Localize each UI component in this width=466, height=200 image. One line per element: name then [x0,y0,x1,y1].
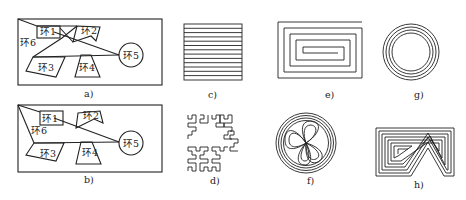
circular-fractal-paths [276,113,336,173]
rectangular-spiral [278,22,362,78]
caption-c: c) [208,89,217,100]
contour-offset-paths [376,128,454,176]
ring-6-label: 环6 [20,37,36,48]
parallel-lines [184,28,242,75]
figure-canvas: 环1 环2 环3 环4 环5 环6 a) 环1 环2 环3 环4 环5 环6 b… [0,0,466,200]
caption-g: g) [414,89,424,100]
panel-e: e) [278,22,362,100]
panel-b: 环1 环2 环3 环4 环5 环6 b) [18,105,162,185]
caption-a: a) [84,88,93,99]
caption-h: h) [414,179,424,190]
ring-3-label: 环3 [38,62,54,73]
ring-1-label: 环1 [42,113,58,124]
ring-4-label: 环4 [82,147,98,158]
panel-d: d) [188,115,238,186]
concentric-circles [383,24,439,80]
hilbert-curve [188,115,238,171]
panel-a: 环1 环2 环3 环4 环5 环6 a) [18,19,162,99]
panel-g: g) [383,24,439,100]
panel-c: c) [184,24,242,100]
ring-2-label: 环2 [81,25,97,36]
caption-b: b) [84,174,94,185]
caption-e: e) [325,89,334,100]
ring-2-label: 环2 [83,110,99,121]
ring-1-label: 环1 [40,26,56,37]
ring-6-label: 环6 [31,125,47,136]
ring-4-label: 环4 [79,62,95,73]
panel-h: h) [376,128,454,190]
ring-5-label: 环5 [123,138,139,149]
panel-f: f) [276,113,336,186]
ring-5-label: 环5 [123,50,139,61]
ring-3-label: 环3 [40,148,56,159]
caption-f: f) [307,175,314,186]
caption-d: d) [210,175,220,186]
